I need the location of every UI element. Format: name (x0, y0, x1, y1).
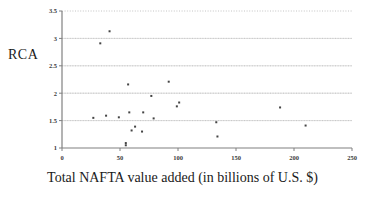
x-axis-tick-label: 250 (347, 154, 357, 161)
data-point (305, 125, 307, 127)
data-point (216, 135, 218, 137)
data-point (153, 117, 155, 119)
data-point (127, 83, 129, 85)
data-point (279, 106, 281, 108)
x-axis-tick-label: 50 (117, 154, 124, 161)
data-point (105, 115, 107, 117)
data-point (141, 131, 143, 133)
data-point (142, 111, 144, 113)
data-point (134, 126, 136, 128)
data-point (109, 30, 111, 32)
y-axis-ticks-group: 11.522.533.5 (49, 7, 62, 151)
data-point (99, 42, 101, 44)
data-point (118, 116, 120, 118)
x-axis-tick-label: 0 (60, 154, 63, 161)
data-point (150, 95, 152, 97)
data-point (128, 111, 130, 113)
data-point (131, 129, 133, 131)
data-point (125, 142, 127, 144)
y-axis-tick-label: 1.5 (49, 117, 58, 124)
gridlines-group (62, 11, 352, 148)
x-axis-ticks-group: 050100150200250 (60, 148, 357, 161)
data-points-group (92, 30, 306, 146)
x-axis-tick-label: 150 (231, 154, 241, 161)
scatter-chart-figure: RCA 11.522.533.5 050100150200250 Total N… (0, 0, 365, 197)
y-axis-tick-label: 3.5 (49, 7, 58, 14)
data-point (215, 121, 217, 123)
data-point (178, 102, 180, 104)
data-point (125, 144, 127, 146)
x-axis-tick-label: 200 (289, 154, 299, 161)
y-axis-tick-label: 2.5 (49, 62, 58, 69)
x-axis-tick-label: 100 (173, 154, 183, 161)
data-point (168, 81, 170, 83)
data-point (92, 117, 94, 119)
y-axis-tick-label: 1 (54, 144, 57, 151)
y-axis-tick-label: 2 (54, 90, 57, 97)
data-point (176, 105, 178, 107)
plot-area-wrapper: 11.522.533.5 050100150200250 (0, 0, 365, 165)
y-axis-tick-label: 3 (54, 35, 58, 42)
x-axis-title: Total NAFTA value added (in billions of … (0, 170, 365, 186)
plot-svg: 11.522.533.5 050100150200250 (0, 0, 365, 165)
